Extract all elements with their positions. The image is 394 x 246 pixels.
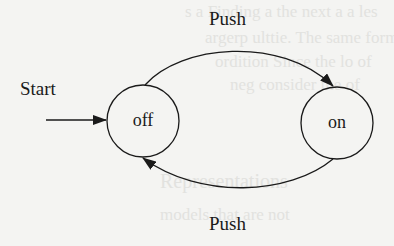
state-off-label: off — [113, 110, 173, 131]
diagram-canvas: s a Finding a the next a a les argerp ul… — [0, 0, 394, 246]
start-label: Start — [20, 78, 56, 100]
transition-on-to-off-arrow — [143, 158, 333, 188]
transition-off-to-on-label: Push — [209, 8, 246, 30]
transition-off-to-on-arrow — [145, 51, 333, 86]
transition-on-to-off-label: Push — [209, 213, 246, 235]
state-on-label: on — [307, 112, 367, 133]
